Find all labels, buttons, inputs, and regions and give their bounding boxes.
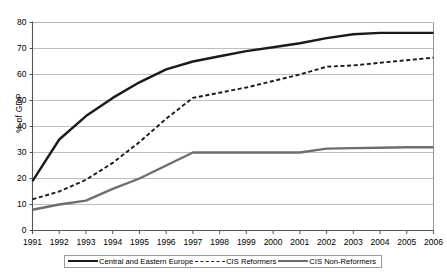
series-line-2 [33,58,434,200]
y-tick-label: 10 [9,200,27,209]
y-tick-label: 0 [9,226,27,235]
y-tick-label: 40 [9,122,27,131]
y-tick-label: 60 [9,70,27,79]
y-tick-label: 80 [9,18,27,27]
x-tick-label: 1997 [179,238,207,247]
line-solid-gray-swatch [278,258,308,266]
y-tick-label: 50 [9,96,27,105]
legend-item: Central and Eastern Europe [68,256,195,267]
legend-label: Central and Eastern Europe [98,258,195,266]
x-tick-label: 2005 [393,238,421,247]
x-tick-label: 2000 [259,238,287,247]
x-tick-label: 2002 [313,238,341,247]
series-line-1 [33,33,434,181]
x-tick-label: 1996 [152,238,180,247]
y-tick-label: 70 [9,44,27,53]
x-tick-label: 1991 [19,238,47,247]
line-solid-dark-swatch [68,258,98,266]
x-tick-label: 2004 [366,238,394,247]
x-tick-label: 1999 [232,238,260,247]
x-tick-label: 1993 [72,238,100,247]
line-dashed-swatch [195,258,225,266]
x-tick-label: 1992 [45,238,73,247]
line-chart: % of GDP 01020304050607080 1991199219931… [0,0,447,277]
chart-legend: Central and Eastern EuropeCIS ReformersC… [64,255,382,268]
legend-label: CIS Reformers [225,258,278,266]
x-tick-label: 1994 [99,238,127,247]
x-tick-label: 2006 [420,238,447,247]
x-tick-label: 2001 [286,238,314,247]
legend-item: CIS Non-Reformers [278,256,378,267]
legend-item: CIS Reformers [195,256,278,267]
plot-area [0,0,447,277]
x-tick-label: 1998 [206,238,234,247]
legend-label: CIS Non-Reformers [308,258,378,266]
y-tick-label: 30 [9,148,27,157]
y-tick-label: 20 [9,174,27,183]
x-tick-label: 1995 [125,238,153,247]
x-tick-label: 2003 [339,238,367,247]
